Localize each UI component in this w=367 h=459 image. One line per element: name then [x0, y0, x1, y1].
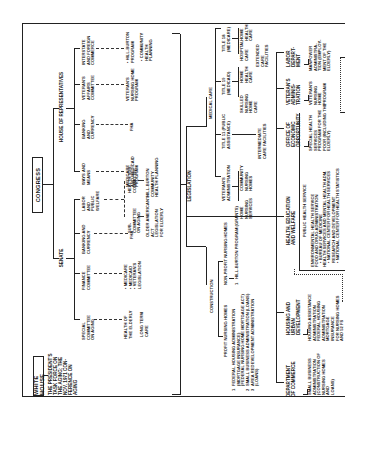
bracket [180, 34, 181, 395]
connector [276, 52, 284, 53]
connector [74, 200, 75, 320]
org-chart: White House The President's Task Force o… [22, 24, 345, 397]
t18-home-health-care: Home Health Care [240, 23, 254, 41]
dashed-connector [104, 199, 124, 200]
va-home-nursing: Home Nursing Services [240, 189, 254, 219]
connector [186, 216, 276, 217]
intermediate-care: Intermediate Care Facilities [258, 109, 267, 159]
house-label: House of Representatives [59, 62, 64, 152]
dashed-connector [96, 124, 128, 125]
va-detail: Veteran's Nursing Home Program [309, 71, 327, 105]
white-house-label: White House [33, 357, 45, 395]
frame-left-edge [22, 24, 23, 397]
house-output-fha: FHA [130, 117, 135, 131]
skilled-nursing-care: Skilled Nursing Home Care [240, 87, 258, 113]
senate-committee-finance: Finance Committee [82, 258, 91, 290]
house-output-medicare-medicaid: Medicare and Medicaid Program [126, 147, 140, 187]
dept-commerce: Department of Commerce [286, 355, 296, 397]
connector [74, 273, 80, 274]
frame-top-edge [22, 23, 345, 24]
dept-hew: Health, Education and Welfare [286, 181, 296, 245]
connector [74, 171, 80, 172]
connector [74, 124, 80, 125]
senate-committee-banking: Banking and Currency [82, 212, 91, 254]
dashed-connector [94, 319, 122, 320]
connector [276, 88, 284, 89]
bracket [172, 33, 180, 34]
connector [215, 28, 221, 29]
dotted-connector [340, 58, 341, 113]
dept-hud: Housing and Urban Development [286, 293, 301, 335]
connector [218, 262, 219, 337]
connector [66, 108, 74, 109]
connector [206, 247, 207, 285]
connector [66, 258, 74, 259]
connector [74, 49, 75, 172]
dashed-connector [94, 273, 122, 274]
dashed-connector [94, 233, 128, 234]
public-health-service: Public Health Service [303, 157, 308, 237]
bracket [172, 394, 180, 395]
hospital-care: Hospital Care [240, 39, 249, 61]
senate-output-finance: • Medicare • Medicaid • Veteran's Legisl… [124, 253, 142, 289]
title-18-branch: Title 18 (Medicare) [222, 22, 231, 52]
connector [276, 382, 284, 383]
title-19-branch: Title 19 (Medicaid) [222, 65, 231, 95]
congress-box: Congress [32, 157, 43, 213]
dept-va: Veteran's Adminis- tration [286, 71, 301, 105]
connector [276, 53, 277, 383]
medical-care-label: Medical Care [209, 79, 214, 119]
construction-label: Construction [210, 273, 215, 313]
legislation-label: Legislation [187, 165, 192, 207]
commerce-detail: Small Business Administration (Construct… [308, 351, 336, 395]
hew-sub-6: • National Center for Health Statistics [336, 113, 341, 263]
dashed-connector [96, 48, 124, 49]
house-committee-banking: Banking and Currency [82, 111, 96, 139]
connector [186, 126, 206, 127]
dashed-connector [138, 216, 144, 217]
older-americans-act: Older American's Act Legislation for Eld… [146, 195, 164, 237]
house-committee-ways-means: Ways and Means [82, 155, 91, 185]
profit-nursing-homes: Profit Nursing Homes [224, 297, 229, 357]
va-community-nursing: Community Nursing Homes [240, 159, 254, 191]
hill-burton-community-health: Hill-Burton Community Health Planning [146, 153, 160, 197]
dotted-connector [294, 269, 295, 275]
nonprofit-item-1-num: 1 [235, 281, 240, 285]
dashed-connector [96, 84, 124, 85]
connector [276, 312, 284, 313]
house-output-veterans-nursing: Veteran's Nursing Home Program [126, 57, 140, 101]
senate-sub-aging: Sub- Committee on Aging [128, 201, 142, 233]
senate-committee-labor: Labor and Public Welfare [82, 187, 100, 211]
profit-item-1-num: 1 [232, 387, 237, 391]
connector [276, 216, 284, 217]
profit-item-3: Area Redevelopment Administration (Loans… [251, 281, 260, 386]
dotted-connector [294, 274, 343, 275]
nonprofit-nursing-homes: Non-Profit Nursing Homes [224, 215, 229, 285]
connector [74, 319, 80, 320]
connector [74, 48, 80, 49]
house-output-hill-burton: • Hill-Burton Program [126, 27, 135, 63]
frame-bottom-edge [22, 396, 345, 397]
house-committee-veterans: Veteran's Affairs Committee [82, 68, 96, 100]
profit-item-3-num: 3 [251, 387, 256, 391]
connector [215, 29, 216, 177]
connector [53, 109, 54, 259]
veterans-admin-branch: Veteran's Administration [222, 161, 231, 201]
connector [74, 199, 80, 200]
task-force-text: The President's Task Force on the Aging;… [48, 351, 79, 395]
connector [232, 134, 256, 135]
connector [206, 97, 207, 127]
senate-output-long-term-care: Long Term Care [140, 307, 149, 337]
connector [186, 246, 206, 247]
extended-care-facilities: Extended Care Facilities [256, 33, 270, 67]
congress-label: Congress [35, 168, 41, 202]
white-house-box: White House [33, 356, 44, 396]
house-committee-interstate: Interstate and Foreign Commerce [82, 29, 96, 65]
connector [74, 233, 80, 234]
t19-home-health-care: Home Health Care [240, 59, 254, 83]
senate-output-health-elderly: Health of the Elderly [124, 299, 133, 339]
oeo-detail: Special Health Services Program for the … [309, 103, 332, 151]
connector [43, 184, 53, 185]
connector [74, 84, 80, 85]
dotted-connector [342, 274, 343, 302]
